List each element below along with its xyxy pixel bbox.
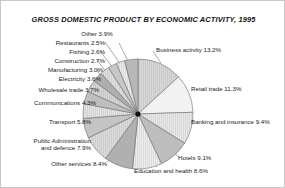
- pie-label-transport: Transport 5.8%: [3, 118, 91, 125]
- pie-label-other-services: Other services 8.4%: [15, 160, 107, 167]
- pie-label-communications: Communications 4.3%: [3, 99, 96, 106]
- pie-label-hotels: Hotels 9.1%: [178, 154, 211, 161]
- pie-label-business-activity: Business activity 13.2%: [156, 46, 221, 53]
- pie-label-other: Other 3.9%: [63, 30, 131, 37]
- pie-label-restaurants: Restaurants 2.5%: [9, 39, 105, 46]
- pie-label-banking-and-insurance: Banking and insurance 9.4%: [191, 118, 270, 125]
- leader-line: [105, 42, 121, 65]
- chart-figure: GROSS DOMESTIC PRODUCT BY ECONOMIC ACTIV…: [0, 0, 285, 188]
- pie-label-fishing: Fishing 2.6%: [9, 48, 105, 55]
- pie-label-wholesale-trade: Wholesale trade 3.7%: [3, 86, 99, 93]
- pie-label-construction: Construction 2.7%: [5, 57, 105, 64]
- pie-label-retail-trade: Retail trade 11.3%: [191, 85, 241, 92]
- pie-label-electricity: Electricity 3.6%: [3, 75, 101, 82]
- pie-center-hub: [135, 111, 140, 116]
- pie-label-public-administration-line2: and defence 7.9%: [3, 144, 91, 151]
- pie-label-education-and-health: Education and health 8.6%: [134, 167, 208, 174]
- leader-line: [119, 43, 128, 61]
- pie-label-manufacturing: Manufacturing 3.0%: [3, 66, 103, 73]
